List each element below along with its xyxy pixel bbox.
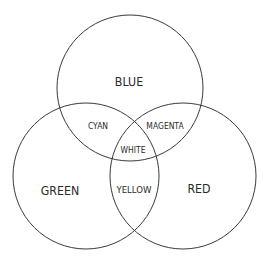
label-yellow: YELLOW: [116, 185, 151, 195]
label-blue: BLUE: [115, 74, 143, 89]
label-green: GREEN: [41, 183, 79, 198]
label-cyan: CYAN: [88, 122, 108, 131]
label-red: RED: [187, 181, 210, 196]
circle-green: [13, 103, 159, 249]
label-white: WHITE: [121, 146, 146, 155]
venn-circles: [0, 0, 269, 256]
label-magenta: MAGENTA: [146, 122, 183, 131]
